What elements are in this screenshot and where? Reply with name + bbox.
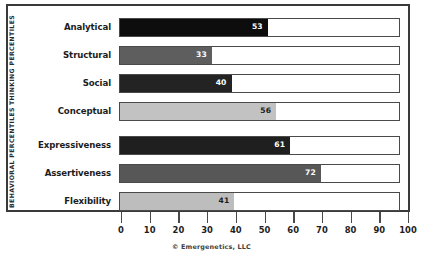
bar-value-label: 41 <box>218 197 234 205</box>
bar-value-label: 53 <box>252 23 268 31</box>
bar-label: Social <box>26 78 119 88</box>
bar-rows: Analytical53Structural33Social40Conceptu… <box>26 8 408 210</box>
bar-fill: 33 <box>120 47 212 64</box>
bar-fill: 53 <box>120 19 268 36</box>
axis-tick <box>379 212 380 223</box>
bar-fill: 56 <box>120 103 276 120</box>
bar-row: Expressiveness61 <box>26 134 408 156</box>
plot-area: THINKING PERCENTILES BEHAVIORAL PERCENTI… <box>6 4 410 212</box>
group-caption-behavioral: BEHAVIORAL PERCENTILES <box>8 110 24 208</box>
bar-row: Structural33 <box>26 44 408 66</box>
bar-track: 40 <box>119 74 400 93</box>
axis-tick <box>236 212 237 223</box>
axis-tick-label: 100 <box>388 225 423 235</box>
bar-track: 41 <box>119 192 400 211</box>
axis-tick <box>265 212 266 223</box>
bar-fill: 40 <box>120 75 232 92</box>
axis-tick <box>121 212 122 223</box>
bar-label: Assertiveness <box>26 168 119 178</box>
bar-value-label: 61 <box>274 141 290 149</box>
bar-track: 61 <box>119 136 400 155</box>
bar-value-label: 40 <box>216 79 232 87</box>
axis-tick <box>178 212 179 223</box>
bar-value-label: 33 <box>196 51 212 59</box>
axis-tick <box>150 212 151 223</box>
bar-row: Conceptual56 <box>26 100 408 122</box>
bar-track: 72 <box>119 164 400 183</box>
bar-label: Structural <box>26 50 119 60</box>
bar-label: Analytical <box>26 22 119 32</box>
bar-track: 56 <box>119 102 400 121</box>
bar-value-label: 56 <box>260 107 276 115</box>
bar-row: Social40 <box>26 72 408 94</box>
bar-label: Flexibility <box>26 196 119 206</box>
bar-row: Assertiveness72 <box>26 162 408 184</box>
copyright-caption: © Emergenetics, LLC <box>0 243 423 251</box>
group-caption-thinking: THINKING PERCENTILES <box>8 12 24 108</box>
axis-tick <box>207 212 208 223</box>
bar-value-label: 72 <box>305 169 321 177</box>
bar-label: Expressiveness <box>26 140 119 150</box>
axis-tick <box>351 212 352 223</box>
bar-track: 53 <box>119 18 400 37</box>
bar-track: 33 <box>119 46 400 65</box>
axis-tick <box>322 212 323 223</box>
bar-fill: 72 <box>120 165 321 182</box>
axis-tick <box>293 212 294 223</box>
bar-row: Analytical53 <box>26 16 408 38</box>
bar-fill: 41 <box>120 193 234 210</box>
axis-tick <box>408 212 409 223</box>
chart-root: THINKING PERCENTILES BEHAVIORAL PERCENTI… <box>0 0 423 262</box>
bar-label: Conceptual <box>26 106 119 116</box>
bar-fill: 61 <box>120 137 290 154</box>
x-axis: © Emergenetics, LLC 01020304050607080901… <box>0 212 423 262</box>
bar-row: Flexibility41 <box>26 190 408 212</box>
